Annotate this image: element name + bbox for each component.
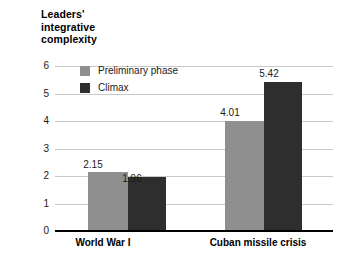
y-tick-label-5: 5 (29, 89, 49, 99)
category-label-cuban-missile-crisis: Cuban missile crisis (196, 237, 320, 248)
chart-title: Leaders' integrative complexity (41, 8, 97, 46)
gridline-6 (55, 66, 333, 67)
axis-baseline (55, 230, 333, 232)
category-label-world-war-i: World War I (58, 237, 148, 248)
y-tick-label-2: 2 (29, 171, 49, 181)
y-tick-label-3: 3 (29, 144, 49, 154)
bar-chart-figure: Leaders' integrative complexity 6 5 4 3 … (0, 0, 346, 265)
bar-world-war-i-climax (128, 177, 166, 231)
y-tick-label-1: 1 (29, 199, 49, 209)
bar-cuban-missile-crisis-preliminary-phase (225, 121, 264, 231)
bar-value-label-cuban-missile-crisis-preliminary-phase: 4.01 (210, 108, 250, 118)
bar-value-label-world-war-i-preliminary-phase: 2.15 (73, 160, 113, 170)
bar-cuban-missile-crisis-climax (264, 82, 302, 231)
bar-value-label-world-war-i-climax: 1.96 (112, 174, 152, 184)
bar-value-label-cuban-missile-crisis-climax: 5.42 (249, 69, 289, 79)
y-tick-label-4: 4 (29, 116, 49, 126)
legend-swatch-climax (80, 83, 90, 93)
legend-label-preliminary-phase: Preliminary phase (98, 66, 178, 76)
y-tick-label-6: 6 (29, 61, 49, 71)
y-tick-label-0: 0 (29, 226, 49, 236)
legend-label-climax: Climax (98, 83, 129, 93)
plot-area (55, 66, 333, 231)
legend-swatch-preliminary-phase (80, 66, 90, 76)
